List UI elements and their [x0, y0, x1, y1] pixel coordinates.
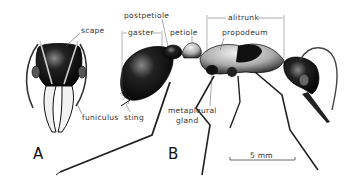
panel-label-a: A	[33, 147, 43, 162]
ant-anatomy-figure: scape funiculus A postpetiole gaster pet…	[0, 0, 358, 192]
label-scope: scape	[81, 27, 105, 35]
head-frontal-view	[27, 33, 87, 132]
label-postpetiole: postpetiole	[124, 12, 169, 20]
label-funiculus: funiculus	[82, 114, 119, 122]
scale-bar-label: 5 mm	[250, 152, 273, 160]
label-propodeum: propodeum	[222, 29, 268, 37]
label-gland: gland	[176, 117, 198, 125]
label-metapleural: metapleural	[168, 107, 217, 115]
ant-lateral-view	[56, 15, 337, 175]
label-alitrunk: alitrunk	[228, 14, 259, 22]
label-gaster: gaster	[128, 29, 154, 37]
label-sting: sting	[124, 114, 144, 122]
panel-label-b: B	[168, 147, 178, 162]
label-petiole: petiole	[170, 29, 198, 37]
